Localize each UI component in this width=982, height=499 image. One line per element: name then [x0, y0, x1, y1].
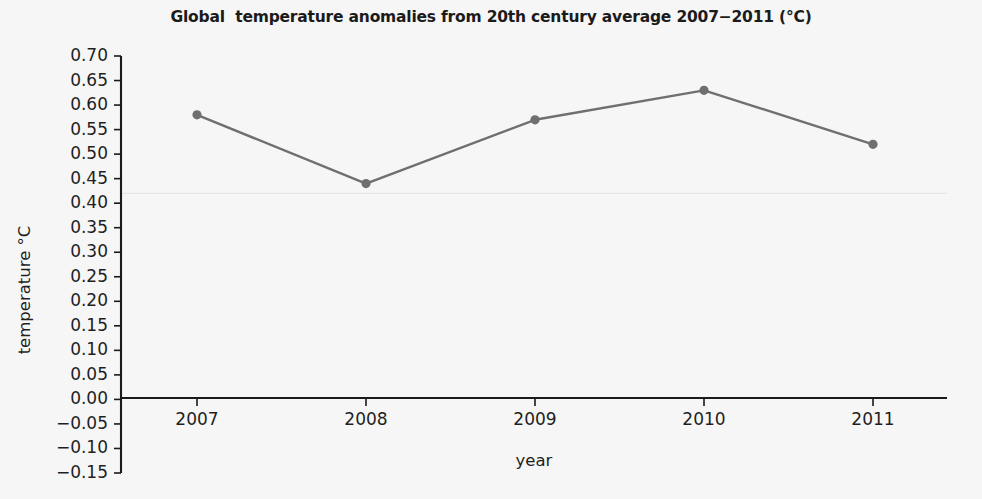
y-tick-label: −0.15	[56, 462, 108, 482]
line-chart-plot: 0.700.650.600.550.500.450.400.350.300.25…	[0, 0, 982, 499]
data-point-marker	[699, 86, 708, 95]
data-point-marker	[192, 110, 201, 119]
y-tick-label: −0.10	[56, 437, 108, 457]
y-tick-label: 0.35	[70, 217, 108, 237]
data-point-marker	[530, 115, 539, 124]
y-tick-label: 0.60	[70, 94, 108, 114]
y-tick-label: 0.45	[70, 168, 108, 188]
y-tick-label: 0.15	[70, 315, 108, 335]
y-tick-label: 0.30	[70, 241, 108, 261]
y-tick-label: 0.25	[70, 266, 108, 286]
y-tick-label: 0.00	[70, 388, 108, 408]
chart-container: Global temperature anomalies from 20th c…	[0, 0, 982, 499]
x-axis: 20072008200920102011	[121, 398, 947, 429]
y-tick-label: −0.05	[56, 413, 108, 433]
data-series-group	[192, 86, 877, 188]
y-axis: 0.700.650.600.550.500.450.400.350.300.25…	[56, 45, 121, 482]
y-tick-label: 0.05	[70, 364, 108, 384]
y-tick-label: 0.20	[70, 290, 108, 310]
x-tick-label: 2011	[851, 409, 894, 429]
data-point-marker	[361, 179, 370, 188]
y-tick-label: 0.55	[70, 119, 108, 139]
y-tick-label: 0.50	[70, 143, 108, 163]
y-tick-label: 0.40	[70, 192, 108, 212]
data-point-marker	[868, 140, 877, 149]
y-tick-label: 0.10	[70, 339, 108, 359]
x-tick-label: 2008	[344, 409, 387, 429]
x-axis-title: year	[516, 451, 553, 470]
y-tick-label: 0.65	[70, 70, 108, 90]
x-tick-label: 2007	[175, 409, 218, 429]
y-axis-title: temperature °C	[15, 226, 34, 355]
y-tick-label: 0.70	[70, 45, 108, 65]
x-tick-label: 2010	[682, 409, 725, 429]
series-line-path	[197, 90, 873, 183]
x-tick-label: 2009	[513, 409, 556, 429]
